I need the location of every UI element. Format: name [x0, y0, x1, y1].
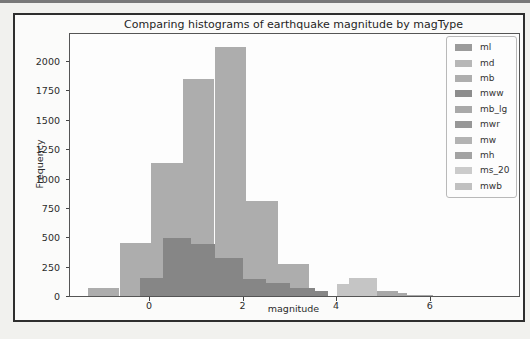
legend-row: ml: [447, 40, 516, 55]
legend-swatch-icon: [455, 121, 472, 128]
legend-swatch-icon: [455, 44, 472, 51]
dark-overlay-histogram-bar: [243, 279, 266, 296]
y-tick-mark: [66, 149, 70, 150]
legend-swatch-icon: [455, 90, 472, 97]
legend-swatch-icon: [455, 137, 472, 144]
legend-row: md: [447, 55, 516, 70]
figure-frame: Comparing histograms of earthquake magni…: [13, 13, 525, 322]
legend-swatch-icon: [455, 106, 472, 113]
y-tick-label: 750: [42, 202, 60, 213]
right-tail-pale-histogram-bar: [349, 278, 377, 296]
legend-label: mwr: [480, 120, 500, 129]
y-tick-label: 1500: [36, 114, 60, 125]
legend-row: mwr: [447, 117, 516, 132]
legend-label: ms_20: [480, 166, 509, 175]
dark-overlay-histogram-bar: [290, 288, 315, 296]
legend-row: ms_20: [447, 163, 516, 178]
y-tick-label: 0: [54, 291, 60, 302]
page-top-rule: [0, 0, 530, 3]
axes: mlmdmbmwwmb_lgmwrmwmhms_20mwb: [69, 33, 520, 297]
legend-row: mwb: [447, 179, 516, 194]
y-tick-mark: [66, 179, 70, 180]
dark-overlay-histogram-bar: [191, 244, 215, 296]
legend-row: mb: [447, 71, 516, 86]
legend-swatch-icon: [455, 152, 472, 159]
dark-overlay-histogram-bar: [266, 283, 290, 297]
dark-overlay-histogram-bar: [315, 291, 329, 296]
legend-swatch-icon: [455, 60, 472, 67]
chart-title: Comparing histograms of earthquake magni…: [69, 17, 518, 32]
y-tick-mark: [66, 267, 70, 268]
y-tick-mark: [66, 90, 70, 91]
legend-label: mwb: [480, 182, 502, 191]
legend-label: ml: [480, 43, 491, 52]
x-axis-label: magnitude: [69, 303, 518, 314]
legend-row: mh: [447, 148, 516, 163]
legend-label: mww: [480, 89, 504, 98]
y-tick-label: 250: [42, 261, 60, 272]
y-tick-mark: [66, 61, 70, 62]
legend: mlmdmbmwwmb_lgmwrmwmhms_20mwb: [446, 36, 517, 198]
y-tick-label: 1750: [36, 85, 60, 96]
dark-overlay-histogram-bar: [163, 238, 191, 296]
right-tail-medium-histogram-bar: [377, 291, 398, 296]
y-tick-label: 2000: [36, 56, 60, 67]
legend-label: md: [480, 59, 494, 68]
right-tail-medium-histogram-bar: [407, 295, 433, 296]
dark-overlay-histogram-bar: [140, 278, 163, 296]
y-tick-mark: [66, 237, 70, 238]
y-tick-mark: [66, 208, 70, 209]
legend-row: mb_lg: [447, 102, 516, 117]
right-tail-medium-histogram-bar: [398, 293, 407, 296]
legend-swatch-icon: [455, 167, 472, 174]
y-tick-label: 500: [42, 232, 60, 243]
page: { "page": { "top_rule_color": "#787878",…: [0, 0, 530, 339]
large-light-histogram-bar: [88, 288, 119, 296]
legend-swatch-icon: [455, 183, 472, 190]
dark-overlay-histogram-bar: [215, 258, 243, 296]
legend-label: mb_lg: [480, 105, 507, 114]
legend-label: mw: [480, 136, 496, 145]
legend-label: mb: [480, 74, 494, 83]
y-tick-mark: [66, 120, 70, 121]
legend-label: mh: [480, 151, 494, 160]
legend-swatch-icon: [455, 75, 472, 82]
legend-row: mww: [447, 86, 516, 101]
right-tail-pale-histogram-bar: [337, 284, 349, 296]
legend-row: mw: [447, 132, 516, 147]
y-tick-mark: [66, 296, 70, 297]
